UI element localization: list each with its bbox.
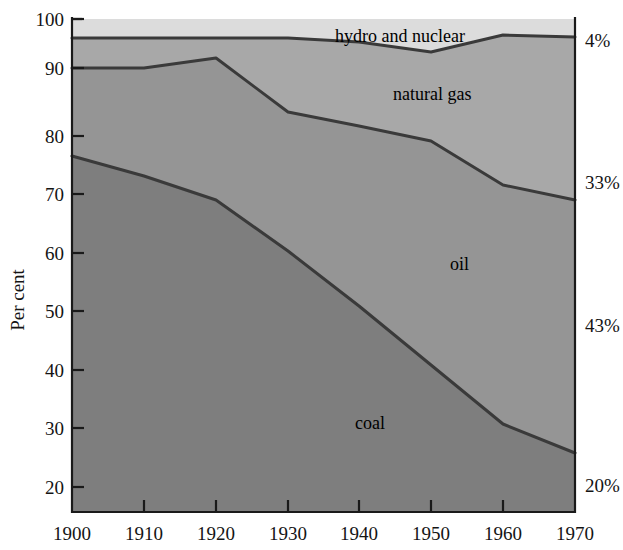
y-tick-label-90: 90 [45,58,64,79]
x-tick-label-1950: 1950 [412,523,450,544]
share-label-natural-gas: 33% [585,172,620,193]
share-label-oil: 43% [585,315,620,336]
y-tick-label-50: 50 [45,301,64,322]
x-tick-label-1910: 1910 [125,523,163,544]
series-label-hydro-and-nuclear: hydro and nuclear [335,26,465,46]
series-label-natural-gas: natural gas [393,84,471,104]
series-label-coal: coal [355,413,385,433]
chart-page: 100 90 80 70 60 50 40 30 20 Per cent 190… [0,0,623,550]
y-axis-tick-labels: 100 90 80 70 60 50 40 30 20 [36,9,65,498]
share-label-coal: 20% [585,475,620,496]
area-bands [72,19,575,512]
series-label-oil: oil [450,254,469,274]
x-tick-label-1940: 1940 [340,523,378,544]
x-axis-tick-labels: 1900 1910 1920 1930 1940 1950 1960 1970 [53,523,594,544]
y-tick-label-80: 80 [45,126,64,147]
y-tick-label-70: 70 [45,184,64,205]
y-axis-title: Per cent [7,268,28,330]
x-tick-label-1960: 1960 [484,523,522,544]
right-share-labels: 4% 33% 43% 20% [585,30,620,496]
share-label-hydro-and-nuclear: 4% [585,30,611,51]
x-tick-label-1970: 1970 [556,523,594,544]
x-tick-label-1930: 1930 [269,523,307,544]
y-tick-label-20: 20 [45,477,64,498]
y-tick-label-40: 40 [45,360,64,381]
y-tick-label-100: 100 [36,9,65,30]
x-tick-label-1900: 1900 [53,523,91,544]
x-tick-label-1920: 1920 [197,523,235,544]
y-tick-label-30: 30 [45,418,64,439]
y-tick-label-60: 60 [45,243,64,264]
stacked-area-chart: 100 90 80 70 60 50 40 30 20 Per cent 190… [0,0,623,550]
